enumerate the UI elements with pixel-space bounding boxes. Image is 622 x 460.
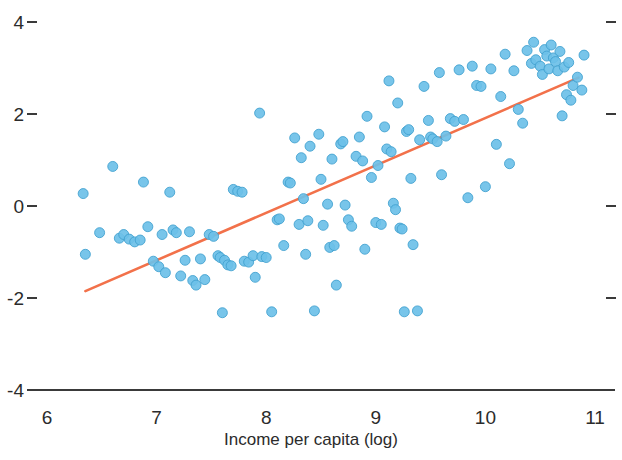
scatter-point bbox=[184, 227, 194, 237]
scatter-point bbox=[195, 254, 205, 264]
scatter-point bbox=[458, 115, 468, 125]
x-tick-label: 8 bbox=[261, 408, 272, 427]
scatter-point bbox=[358, 156, 368, 166]
scatter-point bbox=[298, 194, 308, 204]
y-tick-label: 2 bbox=[0, 105, 24, 124]
scatter-point bbox=[463, 193, 473, 203]
scatter-point bbox=[261, 253, 271, 263]
x-tick-label: 7 bbox=[151, 408, 162, 427]
scatter-point bbox=[329, 241, 339, 251]
scatter-point bbox=[354, 132, 364, 142]
scatter-point bbox=[165, 187, 175, 197]
scatter-point bbox=[237, 187, 247, 197]
scatter-point bbox=[303, 216, 313, 226]
scatter-point bbox=[338, 137, 348, 147]
x-axis-title: Income per capita (log) bbox=[0, 430, 622, 450]
scatter-point bbox=[419, 81, 429, 91]
scatter-point bbox=[285, 178, 295, 188]
scatter-point bbox=[491, 139, 501, 149]
scatter-point bbox=[314, 129, 324, 139]
scatter-point bbox=[309, 306, 319, 316]
scatter-point bbox=[323, 199, 333, 209]
scatter-point bbox=[437, 170, 447, 180]
scatter-point bbox=[296, 153, 306, 163]
scatter-point bbox=[380, 122, 390, 132]
scatter-point bbox=[279, 241, 289, 251]
scatter-point bbox=[566, 95, 576, 105]
scatter-point bbox=[572, 72, 582, 82]
scatter-point bbox=[250, 272, 260, 282]
scatter-point bbox=[255, 108, 265, 118]
scatter-point bbox=[513, 104, 523, 114]
scatter-point bbox=[176, 271, 186, 281]
scatter-point bbox=[274, 214, 284, 224]
scatter-point bbox=[551, 57, 561, 67]
scatter-chart: 420-2-467891011 Income per capita (log) bbox=[0, 0, 622, 460]
scatter-point bbox=[318, 220, 328, 230]
scatter-point bbox=[209, 231, 219, 241]
scatter-point bbox=[80, 249, 90, 259]
scatter-point bbox=[397, 224, 407, 234]
scatter-point bbox=[362, 111, 372, 121]
scatter-point bbox=[360, 244, 370, 254]
y-tick-label: 4 bbox=[0, 13, 24, 32]
scatter-point bbox=[143, 222, 153, 232]
scatter-point bbox=[384, 76, 394, 86]
scatter-point bbox=[386, 147, 396, 157]
scatter-point bbox=[454, 65, 464, 75]
trend-line bbox=[85, 78, 578, 291]
scatter-point bbox=[450, 116, 460, 126]
scatter-point bbox=[555, 46, 565, 56]
x-tick-label: 9 bbox=[371, 408, 382, 427]
scatter-point bbox=[423, 115, 433, 125]
scatter-point bbox=[200, 275, 210, 285]
scatter-points bbox=[78, 37, 589, 317]
scatter-point bbox=[529, 37, 539, 47]
scatter-point bbox=[180, 255, 190, 265]
scatter-point bbox=[305, 141, 315, 151]
scatter-point bbox=[432, 137, 442, 147]
scatter-point bbox=[290, 133, 300, 143]
plot-area bbox=[0, 0, 622, 460]
x-tick-label: 11 bbox=[585, 408, 605, 427]
scatter-point bbox=[399, 307, 409, 317]
scatter-point bbox=[347, 221, 357, 231]
scatter-point bbox=[327, 154, 337, 164]
scatter-point bbox=[160, 268, 170, 278]
scatter-point bbox=[366, 172, 376, 182]
scatter-point bbox=[480, 182, 490, 192]
scatter-point bbox=[376, 219, 386, 229]
scatter-point bbox=[95, 228, 105, 238]
scatter-point bbox=[191, 280, 201, 290]
scatter-point bbox=[509, 66, 519, 76]
scatter-point bbox=[226, 261, 236, 271]
x-tick-label: 6 bbox=[42, 408, 53, 427]
scatter-point bbox=[138, 177, 148, 187]
scatter-point bbox=[316, 174, 326, 184]
scatter-point bbox=[135, 235, 145, 245]
scatter-point bbox=[340, 200, 350, 210]
scatter-point bbox=[157, 230, 167, 240]
scatter-point bbox=[486, 64, 496, 74]
scatter-point bbox=[404, 125, 414, 135]
y-tick-label: -4 bbox=[0, 381, 24, 400]
scatter-point bbox=[505, 159, 515, 169]
scatter-point bbox=[406, 173, 416, 183]
scatter-point bbox=[579, 50, 589, 60]
scatter-point bbox=[434, 68, 444, 78]
scatter-point bbox=[331, 280, 341, 290]
scatter-point bbox=[393, 98, 403, 108]
scatter-point bbox=[267, 307, 277, 317]
tick-marks bbox=[27, 22, 616, 390]
scatter-point bbox=[518, 118, 528, 128]
scatter-point bbox=[577, 85, 587, 95]
scatter-point bbox=[546, 40, 556, 50]
scatter-point bbox=[217, 308, 227, 318]
scatter-point bbox=[476, 81, 486, 91]
y-tick-label: 0 bbox=[0, 197, 24, 216]
scatter-point bbox=[441, 131, 451, 141]
scatter-point bbox=[408, 240, 418, 250]
scatter-point bbox=[496, 92, 506, 102]
trend-line-path bbox=[85, 78, 578, 291]
scatter-point bbox=[108, 161, 118, 171]
